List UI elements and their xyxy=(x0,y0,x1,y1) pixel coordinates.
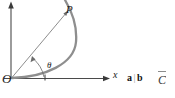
figure-canvas xyxy=(0,0,175,98)
side-text-ab: a|b xyxy=(127,72,143,83)
edge-fragment-glyph: C xyxy=(158,71,166,88)
origin-label: O xyxy=(2,72,11,85)
y-axis xyxy=(8,2,14,79)
token-b: b xyxy=(137,72,143,83)
ray-OP xyxy=(12,12,67,78)
edge-fragment: C xyxy=(158,71,166,88)
point-p-label: P xyxy=(66,4,73,15)
math-figure: O P x θ a|b C xyxy=(0,0,175,98)
theta-angle-label: θ xyxy=(47,61,51,70)
angle-arc-arrowhead xyxy=(31,56,36,62)
x-axis-label: x xyxy=(113,70,117,80)
